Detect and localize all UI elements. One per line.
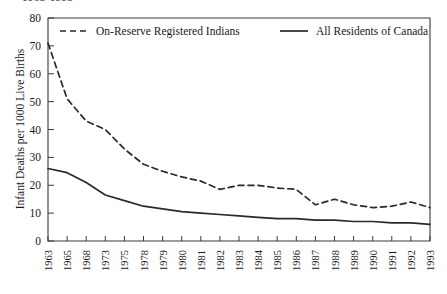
x-tick-label: 1968	[81, 250, 92, 271]
line-chart-svg: 01020304050607080 1963196519681973197519…	[0, 0, 447, 294]
x-tick-label: 1988	[330, 250, 341, 271]
y-tick-label: 0	[35, 235, 41, 247]
legend-label-0: On-Reserve Registered Indians	[96, 25, 240, 38]
x-tick-label: 1992	[406, 250, 417, 271]
x-tick-label: 1965	[62, 250, 73, 271]
chart-figure: 1963-1993 Infant Deaths per 1000 Live Bi…	[0, 0, 447, 294]
y-tick-label: 60	[30, 68, 42, 80]
x-tick-label: 1978	[139, 250, 150, 271]
x-tick-label: 1981	[196, 250, 207, 271]
x-tick-label: 1985	[272, 250, 283, 271]
legend-label-1: All Residents of Canada	[316, 25, 428, 37]
y-tick-label: 40	[30, 124, 42, 136]
chart-legend: On-Reserve Registered IndiansAll Residen…	[60, 25, 428, 38]
x-tick-label: 1991	[387, 250, 398, 271]
y-axis-ticks: 01020304050607080	[30, 12, 55, 247]
x-tick-label: 1990	[368, 250, 379, 271]
y-tick-label: 70	[30, 40, 42, 52]
x-tick-label: 1980	[177, 250, 188, 271]
y-tick-label: 10	[30, 207, 42, 219]
x-tick-label: 1984	[253, 249, 264, 271]
x-tick-label: 1993	[425, 250, 436, 271]
y-tick-label: 30	[30, 151, 42, 163]
data-series-group	[48, 43, 430, 224]
x-tick-label: 1975	[119, 250, 130, 271]
y-tick-label: 80	[30, 12, 42, 24]
x-tick-label: 1963	[43, 250, 54, 271]
x-tick-label: 1979	[158, 250, 169, 271]
series-line-0	[48, 43, 430, 208]
x-tick-label: 1983	[234, 250, 245, 271]
x-tick-label: 1987	[310, 250, 321, 271]
x-tick-label: 1973	[100, 250, 111, 271]
x-tick-label: 1986	[291, 250, 302, 271]
x-tick-label: 1982	[215, 250, 226, 271]
x-tick-label: 1989	[349, 250, 360, 271]
y-tick-label: 50	[30, 96, 42, 108]
series-line-1	[48, 169, 430, 225]
y-tick-label: 20	[30, 179, 42, 191]
